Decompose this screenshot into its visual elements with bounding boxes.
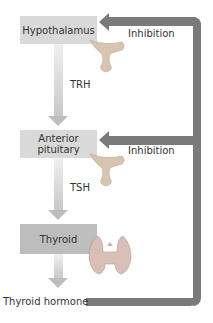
feedback-mid-bar bbox=[108, 136, 198, 145]
inhibition-arrowhead-pituitary bbox=[99, 131, 109, 149]
anterior-pituitary-box: Anterior pituitary bbox=[20, 130, 97, 158]
hypothalamus-label: Hypothalamus bbox=[22, 25, 95, 36]
feedback-right-bar bbox=[193, 17, 201, 306]
hypothalamus-box: Hypothalamus bbox=[20, 16, 97, 44]
thyroid-box: Thyroid bbox=[20, 224, 97, 254]
inhibition-label-mid: Inhibition bbox=[128, 145, 175, 156]
thyroid-gland-icon bbox=[87, 234, 133, 278]
tsh-arrowhead bbox=[48, 210, 68, 220]
pituitary-gland-icon-mid bbox=[88, 152, 128, 188]
tsh-arrow-shaft bbox=[54, 158, 63, 210]
feedback-bottom-bar bbox=[86, 298, 198, 306]
thyroid-hormone-label: Thyroid hormone bbox=[3, 296, 88, 307]
pituitary-gland-icon-top bbox=[88, 38, 128, 74]
inhibition-arrowhead-hypothalamus bbox=[99, 13, 109, 31]
anterior-pituitary-label-line1: Anterior bbox=[38, 133, 78, 144]
tsh-label: TSH bbox=[70, 182, 90, 193]
hormone-arrowhead bbox=[48, 278, 68, 288]
trh-arrow-shaft bbox=[54, 44, 63, 116]
inhibition-label-top: Inhibition bbox=[128, 28, 175, 39]
trh-arrowhead bbox=[48, 116, 68, 126]
trh-label: TRH bbox=[70, 79, 91, 90]
anterior-pituitary-label-line2: pituitary bbox=[37, 144, 79, 155]
thyroid-label: Thyroid bbox=[40, 234, 78, 245]
hormone-arrow-shaft bbox=[54, 254, 63, 278]
feedback-top-bar bbox=[108, 17, 201, 26]
